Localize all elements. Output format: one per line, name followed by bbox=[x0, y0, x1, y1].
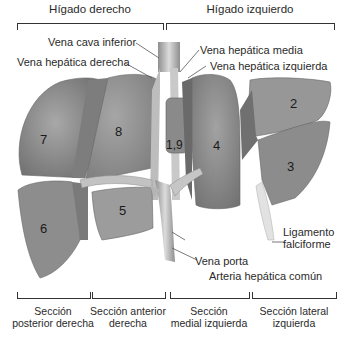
bracket-section-posterior-right bbox=[17, 292, 91, 299]
ivc-shape bbox=[158, 42, 180, 72]
segment-2-label: 2 bbox=[290, 96, 297, 111]
section-medial-left: Sección medial izquierda bbox=[168, 305, 250, 329]
segment-6-shape bbox=[18, 181, 81, 278]
section-label-line1: Sección lateral bbox=[252, 305, 336, 317]
segment-7-label: 7 bbox=[40, 132, 47, 147]
bracket-section-lateral-left bbox=[252, 292, 337, 299]
segment-4-label: 4 bbox=[213, 138, 220, 153]
label-middle-hepatic-vein: Vena hepática media bbox=[200, 44, 303, 56]
label-falciform-1: Ligamento bbox=[283, 226, 334, 238]
section-label-line2: posterior derecha bbox=[8, 317, 98, 329]
segment-5-label: 5 bbox=[119, 203, 126, 218]
section-posterior-right: Sección posterior derecha bbox=[8, 305, 98, 329]
bracket-section-anterior-right bbox=[92, 292, 166, 299]
section-lateral-left: Sección lateral izquierda bbox=[252, 305, 336, 329]
section-label-line2: izquierda bbox=[252, 317, 336, 329]
bracket-section-medial-left bbox=[170, 292, 250, 299]
label-falciform-2: falciforme bbox=[283, 238, 331, 250]
section-label-line2: derecha bbox=[88, 317, 168, 329]
section-label-line1: Sección bbox=[8, 305, 98, 317]
segment-6-label: 6 bbox=[40, 221, 47, 236]
section-label-line2: medial izquierda bbox=[168, 317, 250, 329]
segment-8-label: 8 bbox=[115, 124, 122, 139]
label-common-hepatic-artery: Arteria hepática común bbox=[209, 270, 322, 282]
section-anterior-right: Sección anterior derecha bbox=[88, 305, 168, 329]
section-label-line1: Sección anterior bbox=[88, 305, 168, 317]
segment-1-9-label: 1,9 bbox=[166, 138, 183, 152]
label-right-hepatic-vein: Vena hepática derecha bbox=[17, 56, 130, 68]
label-ivc: Vena cava inferior bbox=[48, 36, 136, 48]
section-label-line1: Sección bbox=[168, 305, 250, 317]
label-left-hepatic-vein: Vena hepática izquierda bbox=[210, 60, 327, 72]
segment-3-label: 3 bbox=[287, 159, 294, 174]
label-portal-vein: Vena porta bbox=[195, 255, 248, 267]
